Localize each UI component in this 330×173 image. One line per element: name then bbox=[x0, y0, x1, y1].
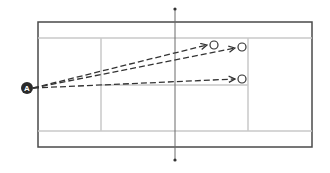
shot-arrow-2 bbox=[33, 48, 235, 88]
net-post-top-icon bbox=[173, 7, 176, 10]
player-marker: A bbox=[21, 82, 33, 94]
target-circle-icon bbox=[238, 43, 246, 51]
player-label: A bbox=[24, 84, 30, 93]
shot-paths bbox=[33, 41, 246, 88]
tennis-court-diagram: A bbox=[0, 0, 330, 173]
target-circle-icon bbox=[238, 75, 246, 83]
target-circle-icon bbox=[210, 41, 218, 49]
net-post-bottom-icon bbox=[173, 158, 176, 161]
